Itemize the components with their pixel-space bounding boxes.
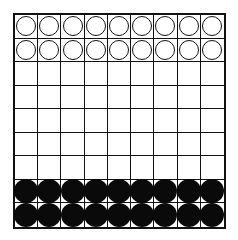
board-cell-r6-c3[interactable] bbox=[61, 133, 84, 157]
board-cell-r6-c7[interactable] bbox=[154, 133, 177, 157]
board-cell-r9-c2[interactable] bbox=[38, 203, 61, 227]
board-cell-r5-c7[interactable] bbox=[154, 109, 177, 133]
board-cell-r9-c9[interactable] bbox=[201, 203, 224, 227]
board-cell-r5-c8[interactable] bbox=[178, 109, 201, 133]
board-cell-r7-c9[interactable] bbox=[201, 156, 224, 180]
white-piece[interactable] bbox=[39, 40, 59, 60]
board-cell-r4-c7[interactable] bbox=[154, 86, 177, 110]
board-cell-r8-c6[interactable] bbox=[131, 180, 154, 204]
board-cell-r2-c2[interactable] bbox=[38, 39, 61, 63]
black-piece[interactable] bbox=[61, 203, 85, 227]
white-piece[interactable] bbox=[63, 40, 83, 60]
black-piece[interactable] bbox=[200, 179, 224, 203]
board-cell-r6-c6[interactable] bbox=[131, 133, 154, 157]
board-cell-r8-c8[interactable] bbox=[178, 180, 201, 204]
white-piece[interactable] bbox=[155, 40, 175, 60]
board-cell-r4-c1[interactable] bbox=[15, 86, 38, 110]
board-cell-r4-c9[interactable] bbox=[201, 86, 224, 110]
black-piece[interactable] bbox=[14, 179, 38, 203]
board-cell-r2-c6[interactable] bbox=[131, 39, 154, 63]
board-cell-r2-c5[interactable] bbox=[108, 39, 131, 63]
black-piece[interactable] bbox=[130, 179, 154, 203]
board-cell-r3-c1[interactable] bbox=[15, 62, 38, 86]
white-piece[interactable] bbox=[202, 40, 222, 60]
board-cell-r7-c4[interactable] bbox=[85, 156, 108, 180]
board-cell-r9-c5[interactable] bbox=[108, 203, 131, 227]
board-cell-r7-c8[interactable] bbox=[178, 156, 201, 180]
board-cell-r3-c8[interactable] bbox=[178, 62, 201, 86]
black-piece[interactable] bbox=[177, 203, 201, 227]
white-piece[interactable] bbox=[16, 40, 36, 60]
board-cell-r8-c5[interactable] bbox=[108, 180, 131, 204]
board-cell-r5-c4[interactable] bbox=[85, 109, 108, 133]
board-cell-r7-c1[interactable] bbox=[15, 156, 38, 180]
board-cell-r9-c8[interactable] bbox=[178, 203, 201, 227]
board-cell-r7-c5[interactable] bbox=[108, 156, 131, 180]
board-cell-r1-c1[interactable] bbox=[15, 15, 38, 39]
board-cell-r2-c3[interactable] bbox=[61, 39, 84, 63]
board-cell-r5-c5[interactable] bbox=[108, 109, 131, 133]
black-piece[interactable] bbox=[37, 203, 61, 227]
board-cell-r1-c9[interactable] bbox=[201, 15, 224, 39]
board-cell-r5-c3[interactable] bbox=[61, 109, 84, 133]
board-cell-r9-c6[interactable] bbox=[131, 203, 154, 227]
board-cell-r9-c1[interactable] bbox=[15, 203, 38, 227]
board-cell-r4-c5[interactable] bbox=[108, 86, 131, 110]
board-cell-r3-c7[interactable] bbox=[154, 62, 177, 86]
board-cell-r2-c1[interactable] bbox=[15, 39, 38, 63]
board-cell-r8-c3[interactable] bbox=[61, 180, 84, 204]
white-piece[interactable] bbox=[63, 16, 83, 36]
board-cell-r6-c2[interactable] bbox=[38, 133, 61, 157]
board-cell-r1-c6[interactable] bbox=[131, 15, 154, 39]
board-cell-r3-c5[interactable] bbox=[108, 62, 131, 86]
board-cell-r5-c9[interactable] bbox=[201, 109, 224, 133]
board-cell-r7-c7[interactable] bbox=[154, 156, 177, 180]
board-cell-r2-c9[interactable] bbox=[201, 39, 224, 63]
board-cell-r6-c4[interactable] bbox=[85, 133, 108, 157]
board-cell-r5-c2[interactable] bbox=[38, 109, 61, 133]
white-piece[interactable] bbox=[109, 40, 129, 60]
board-cell-r7-c2[interactable] bbox=[38, 156, 61, 180]
board-cell-r2-c7[interactable] bbox=[154, 39, 177, 63]
board-cell-r4-c4[interactable] bbox=[85, 86, 108, 110]
board-cell-r4-c2[interactable] bbox=[38, 86, 61, 110]
black-piece[interactable] bbox=[200, 203, 224, 227]
black-piece[interactable] bbox=[107, 179, 131, 203]
board-cell-r6-c8[interactable] bbox=[178, 133, 201, 157]
white-piece[interactable] bbox=[16, 16, 36, 36]
board-cell-r7-c3[interactable] bbox=[61, 156, 84, 180]
board-cell-r3-c4[interactable] bbox=[85, 62, 108, 86]
board-cell-r5-c6[interactable] bbox=[131, 109, 154, 133]
board-cell-r9-c7[interactable] bbox=[154, 203, 177, 227]
board-cell-r7-c6[interactable] bbox=[131, 156, 154, 180]
black-piece[interactable] bbox=[14, 203, 38, 227]
board-cell-r6-c9[interactable] bbox=[201, 133, 224, 157]
board-cell-r1-c8[interactable] bbox=[178, 15, 201, 39]
board-cell-r3-c6[interactable] bbox=[131, 62, 154, 86]
board-cell-r4-c6[interactable] bbox=[131, 86, 154, 110]
black-piece[interactable] bbox=[84, 179, 108, 203]
white-piece[interactable] bbox=[179, 16, 199, 36]
black-piece[interactable] bbox=[84, 203, 108, 227]
board-cell-r6-c5[interactable] bbox=[108, 133, 131, 157]
board-cell-r8-c2[interactable] bbox=[38, 180, 61, 204]
white-piece[interactable] bbox=[155, 16, 175, 36]
white-piece[interactable] bbox=[39, 16, 59, 36]
white-piece[interactable] bbox=[132, 16, 152, 36]
board-cell-r2-c8[interactable] bbox=[178, 39, 201, 63]
board-cell-r3-c3[interactable] bbox=[61, 62, 84, 86]
white-piece[interactable] bbox=[202, 16, 222, 36]
board-cell-r4-c3[interactable] bbox=[61, 86, 84, 110]
board-cell-r6-c1[interactable] bbox=[15, 133, 38, 157]
board-cell-r2-c4[interactable] bbox=[85, 39, 108, 63]
black-piece[interactable] bbox=[130, 203, 154, 227]
black-piece[interactable] bbox=[107, 203, 131, 227]
black-piece[interactable] bbox=[153, 179, 177, 203]
board-cell-r9-c3[interactable] bbox=[61, 203, 84, 227]
board-cell-r1-c5[interactable] bbox=[108, 15, 131, 39]
board-cell-r8-c1[interactable] bbox=[15, 180, 38, 204]
black-piece[interactable] bbox=[153, 203, 177, 227]
board-cell-r9-c4[interactable] bbox=[85, 203, 108, 227]
black-piece[interactable] bbox=[37, 179, 61, 203]
board-cell-r8-c7[interactable] bbox=[154, 180, 177, 204]
